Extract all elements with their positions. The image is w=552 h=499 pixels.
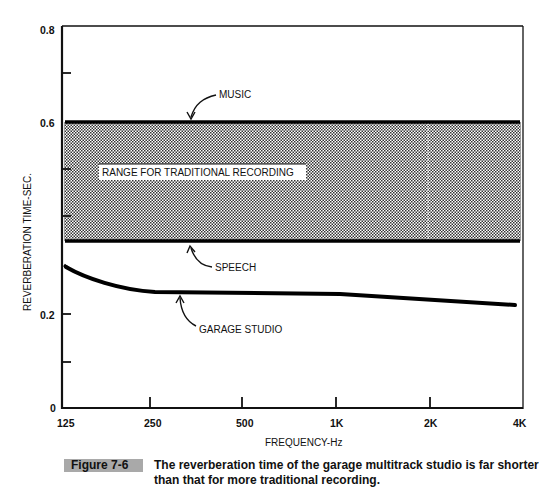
x-axis-title: FREQUENCY-Hz [265,437,342,448]
x-label-4k: 4K [513,417,527,429]
range-label: RANGE FOR TRADITIONAL RECORDING [102,167,294,178]
x-label-500: 500 [236,417,254,429]
figure-number: Figure 7-6 [64,459,143,472]
y-axis-title: REVERBERATION TIME-SEC. [22,173,33,311]
garage-studio-curve [66,267,515,305]
y-label-0.2: 0.2 [40,309,55,321]
x-label-2k: 2K [424,417,438,429]
reverberation-chart: 0.8 0.6 0.2 0 125 250 500 1K 2K 4K FREQU… [0,0,552,499]
caption-text: The reverberation time of the garage mul… [154,458,552,488]
y-label-0: 0 [50,402,56,414]
garage-label: GARAGE STUDIO [199,324,283,335]
y-label-0.8: 0.8 [40,24,55,36]
traditional-range-band [64,122,521,241]
x-label-250: 250 [144,417,162,429]
x-ticks [150,397,430,408]
speech-label: SPEECH [215,262,256,273]
x-label-125: 125 [57,417,75,429]
music-label: MUSIC [219,89,251,100]
y-label-0.6: 0.6 [40,117,55,129]
x-label-1k: 1K [330,417,344,429]
garage-arrow-icon [180,298,196,326]
